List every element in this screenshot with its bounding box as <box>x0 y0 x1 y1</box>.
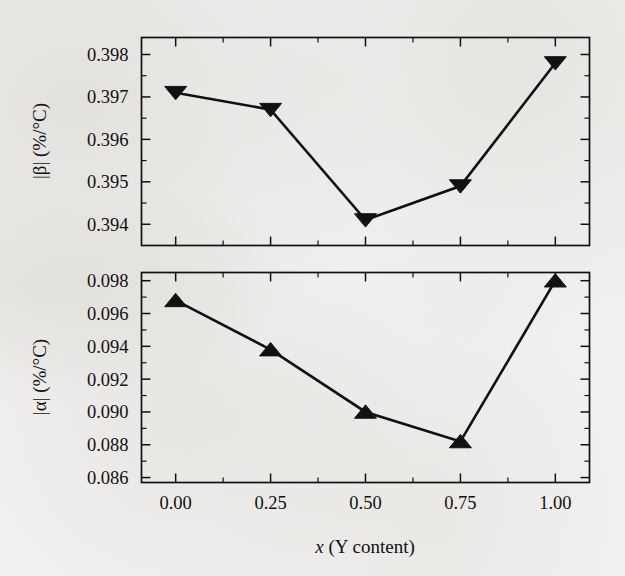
y-tick-label: 0.395 <box>87 172 129 192</box>
data-marker-triangle-down <box>449 180 471 193</box>
y-tick-label: 0.094 <box>87 337 129 357</box>
data-marker-triangle-down <box>355 214 377 227</box>
y-tick-label: 0.086 <box>87 468 129 488</box>
panel-top-y-tick-labels: 0.3940.3950.3960.3970.398 <box>87 45 129 235</box>
y-tick-label: 0.396 <box>87 130 129 150</box>
panel-bottom-frame <box>142 273 590 483</box>
x-tick-label: 0.00 <box>159 493 191 513</box>
panel-top-y-axis-title: |β| (%/°C) <box>29 103 51 179</box>
data-marker-triangle-up <box>449 434 471 447</box>
panel-top-beta: 0.3940.3950.3960.3970.398 |β| (%/°C) <box>29 38 590 246</box>
y-tick-label: 0.098 <box>87 271 129 291</box>
figure-two-panel-line-chart: 0.3940.3950.3960.3970.398 |β| (%/°C) 0.0… <box>0 0 625 576</box>
y-tick-label: 0.092 <box>87 370 129 390</box>
y-tick-label: 0.398 <box>87 45 129 65</box>
x-axis-title-rest: (Y content) <box>324 536 415 558</box>
x-tick-label: 0.75 <box>444 493 476 513</box>
data-marker-triangle-down <box>260 103 282 116</box>
x-tick-label: 1.00 <box>539 493 571 513</box>
y-tick-label: 0.397 <box>87 87 129 107</box>
y-tick-label: 0.088 <box>87 435 129 455</box>
panel-top-data-line <box>176 63 556 220</box>
data-marker-triangle-down <box>544 57 566 70</box>
panel-bottom-markers <box>165 274 567 448</box>
x-tick-label: 0.50 <box>349 493 381 513</box>
y-tick-label: 0.090 <box>87 402 129 422</box>
x-tick-label: 0.25 <box>254 493 286 513</box>
panel-top-y-ticks <box>142 54 590 224</box>
data-marker-triangle-up <box>544 274 566 287</box>
x-axis-tick-labels: 0.000.250.500.751.00 <box>159 493 571 513</box>
panel-bottom-alpha: 0.0860.0880.0900.0920.0940.0960.098 |α| … <box>29 271 590 558</box>
panel-bottom-y-axis-title: |α| (%/°C) <box>29 339 51 415</box>
panel-bottom-y-tick-labels: 0.0860.0880.0900.0920.0940.0960.098 <box>87 271 129 488</box>
panel-bottom-y-ticks <box>142 281 590 478</box>
x-axis-title: x (Y content) <box>314 536 415 558</box>
data-marker-triangle-up <box>165 293 187 306</box>
panel-top-markers <box>165 57 567 227</box>
y-tick-label: 0.096 <box>87 304 129 324</box>
y-tick-label: 0.394 <box>87 215 129 235</box>
